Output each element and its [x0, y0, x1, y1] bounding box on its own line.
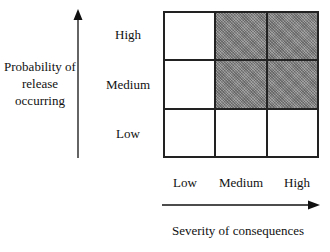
risk-matrix — [163, 11, 319, 158]
cell-medium-high — [267, 60, 318, 108]
x-tick-high: High — [271, 175, 323, 190]
cell-low-low — [164, 109, 215, 157]
cell-low-medium — [215, 109, 266, 157]
cell-high-high — [267, 12, 318, 60]
y-tick-low: Low — [93, 126, 163, 141]
y-axis-arrow-icon — [72, 8, 84, 160]
x-tick-low: Low — [159, 175, 211, 190]
cell-high-low — [164, 12, 215, 60]
cell-medium-medium — [215, 60, 266, 108]
y-tick-high: High — [93, 27, 163, 42]
x-tick-medium: Medium — [215, 175, 267, 190]
y-axis-label: Probability of release occurring — [2, 58, 78, 109]
x-axis-arrow-icon — [162, 199, 322, 211]
cell-high-medium — [215, 12, 266, 60]
x-axis-label: Severity of consequences — [172, 223, 304, 238]
cell-medium-low — [164, 60, 215, 108]
cell-low-high — [267, 109, 318, 157]
y-tick-medium: Medium — [93, 77, 163, 92]
